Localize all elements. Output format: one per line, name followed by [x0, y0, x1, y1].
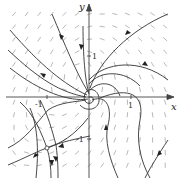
field-segment: [101, 163, 104, 167]
field-segment: [101, 138, 104, 142]
field-segment: [139, 75, 141, 80]
field-segment: [64, 74, 65, 79]
field-segment: [12, 25, 15, 29]
field-segment: [101, 125, 103, 130]
y-axis-label: y: [78, 1, 85, 12]
x-axis-arrow-icon: [167, 95, 174, 100]
field-segment: [63, 62, 66, 66]
field-segment: [75, 38, 79, 41]
field-segment: [38, 25, 41, 29]
field-segment: [88, 163, 92, 167]
field-segment: [25, 37, 28, 41]
field-segment: [112, 26, 117, 28]
field-segment: [26, 100, 27, 105]
field-segment: [138, 50, 141, 54]
field-segment: [152, 100, 153, 105]
x-tick-neg1: -1: [35, 100, 43, 109]
field-segment: [139, 87, 140, 92]
field-segment: [127, 125, 128, 130]
field-segment: [75, 64, 80, 66]
field-segment: [151, 50, 154, 54]
field-segment: [63, 25, 67, 29]
field-segment: [164, 62, 167, 66]
field-segment: [87, 39, 92, 40]
field-segment: [163, 25, 167, 28]
field-segment: [88, 151, 91, 155]
field-segment: [164, 50, 167, 54]
field-segment: [127, 150, 129, 155]
field-segment: [13, 75, 16, 80]
field-segment: [51, 62, 53, 67]
field-segment: [25, 138, 29, 141]
field-segment: [114, 150, 116, 155]
field-segment: [126, 50, 129, 54]
field-segment: [112, 13, 117, 14]
field-segment: [49, 152, 54, 154]
field-segment: [13, 138, 14, 143]
field-segment: [163, 37, 167, 41]
field-segment: [12, 164, 16, 167]
field-segment: [127, 87, 128, 92]
field-segment: [12, 12, 15, 16]
field-segment: [114, 100, 115, 105]
field-segment: [49, 139, 54, 140]
field-segment: [49, 115, 54, 116]
y-tick-neg1: -1: [76, 135, 84, 144]
field-segment: [24, 152, 29, 154]
field-segment: [63, 12, 67, 16]
field-segment: [152, 87, 154, 92]
field-segment: [13, 112, 14, 117]
field-segment: [88, 113, 91, 117]
field-segment: [151, 25, 155, 28]
field-segment: [126, 62, 128, 67]
field-segment: [151, 37, 155, 41]
field-segment: [127, 138, 128, 143]
field-segment: [25, 25, 28, 29]
field-segment: [165, 112, 166, 117]
y-tick-1: 1: [92, 52, 97, 61]
field-segment: [127, 112, 128, 117]
field-segment: [38, 113, 41, 117]
field-segment: [13, 50, 16, 54]
field-segment: [26, 87, 28, 92]
field-segment: [63, 50, 66, 54]
field-segment: [138, 37, 142, 41]
field-segment: [13, 37, 16, 41]
field-segment: [125, 13, 130, 15]
field-segment: [100, 26, 105, 27]
field-segment: [113, 38, 117, 41]
field-segment: [138, 13, 143, 15]
field-segment: [62, 126, 67, 128]
field-segment: [125, 25, 129, 28]
field-segment: [25, 12, 28, 16]
field-segment: [25, 50, 28, 54]
field-segment: [51, 87, 52, 92]
field-segment: [38, 12, 41, 16]
field-segment: [13, 62, 16, 66]
field-segment: [164, 100, 166, 105]
field-segment: [49, 127, 54, 128]
field-segment: [126, 163, 128, 168]
field-segment: [50, 50, 53, 54]
field-segment: [100, 38, 105, 40]
field-segment: [87, 26, 92, 27]
field-segment: [140, 137, 141, 142]
field-segment: [13, 87, 15, 92]
field-segment: [13, 151, 16, 155]
field-segment: [114, 74, 115, 79]
phase-portrait-svg: x y -1 1 1 -1: [0, 0, 179, 180]
field-segment: [38, 37, 41, 41]
field-segment: [38, 50, 41, 54]
field-segment: [75, 51, 79, 54]
x-axis-label: x: [171, 101, 177, 112]
field-segment: [50, 101, 54, 104]
field-segment: [114, 112, 115, 117]
field-segment: [62, 164, 66, 167]
field-segment: [13, 100, 15, 105]
field-segment: [26, 125, 28, 130]
phase-portrait-figure: x y -1 1 1 -1: [0, 0, 179, 180]
y-axis-arrow-icon: [87, 4, 92, 11]
field-segment: [114, 138, 116, 143]
field-segment: [38, 62, 40, 67]
field-segment: [51, 75, 52, 80]
